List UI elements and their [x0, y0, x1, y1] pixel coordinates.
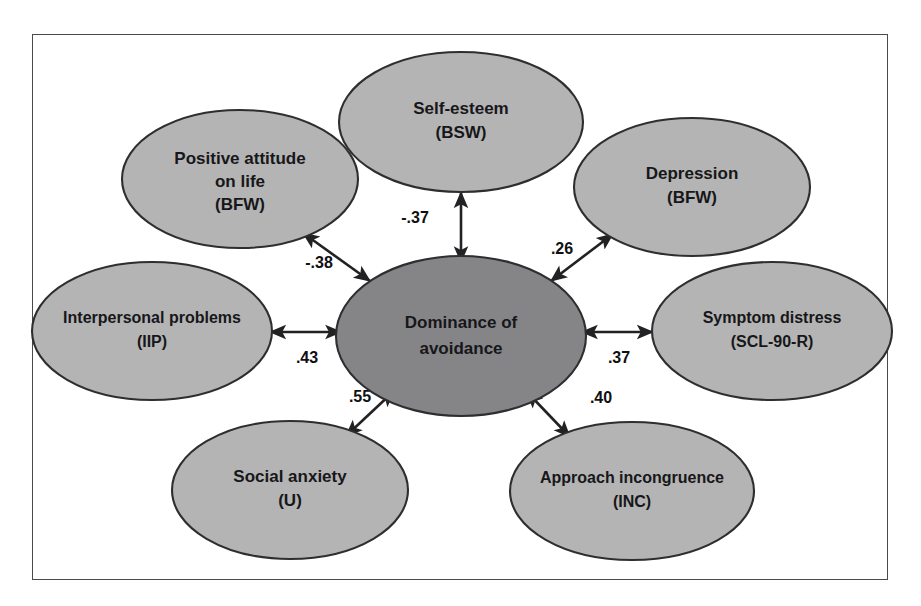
edge-label-positive-attitude: -.38 [305, 254, 333, 271]
node-label-dominance-line1: Dominance of [405, 313, 518, 332]
edge-interpersonal-problems: .43 [270, 332, 341, 366]
node-label-self-esteem-line1: Self-esteem [413, 99, 508, 118]
node-ellipse-approach-incongruence[interactable] [510, 422, 754, 560]
node-label-symptom-distress-line1: Symptom distress [703, 309, 842, 326]
node-ellipse-interpersonal-problems[interactable] [32, 262, 272, 400]
node-positive-attitude-on-life[interactable]: Positive attitude on life (BFW) [122, 110, 358, 248]
node-symptom-distress[interactable]: Symptom distress (SCL-90-R) [652, 262, 892, 400]
edge-depression: .26 [551, 234, 613, 281]
node-label-dominance-line2: avoidance [419, 339, 502, 358]
node-depression[interactable]: Depression (BFW) [574, 118, 810, 256]
node-ellipse-social-anxiety[interactable] [172, 421, 408, 559]
node-label-symptom-distress-line2: (SCL-90-R) [731, 333, 814, 350]
node-label-depression-line1: Depression [646, 164, 739, 183]
node-approach-incongruence[interactable]: Approach incongruence (INC) [510, 422, 754, 560]
node-ellipse-self-esteem[interactable] [339, 52, 583, 192]
node-label-positive-attitude-line2: on life [215, 172, 265, 191]
node-label-interpersonal-problems-line1: Interpersonal problems [63, 309, 241, 326]
edge-label-interpersonal-problems: .43 [296, 349, 318, 366]
node-label-self-esteem-line2: (BSW) [436, 123, 487, 142]
edge-positive-attitude: -.38 [303, 233, 370, 281]
node-label-approach-incongruence-line2: (INC) [613, 493, 651, 510]
node-label-positive-attitude-line3: (BFW) [215, 195, 265, 214]
edge-label-depression: .26 [551, 240, 573, 257]
node-social-anxiety[interactable]: Social anxiety (U) [172, 421, 408, 559]
node-label-interpersonal-problems-line2: (IIP) [137, 333, 167, 350]
node-ellipse-dominance-of-avoidance[interactable] [336, 256, 586, 416]
edge-label-approach-incongruence: .40 [590, 389, 612, 406]
node-label-approach-incongruence-line1: Approach incongruence [540, 469, 724, 486]
node-ellipse-symptom-distress[interactable] [652, 262, 892, 400]
edge-label-social-anxiety: .55 [349, 388, 371, 405]
edge-self-esteem: -.37 [401, 192, 461, 262]
edge-label-self-esteem: -.37 [401, 209, 429, 226]
node-ellipse-depression[interactable] [574, 118, 810, 256]
node-interpersonal-problems[interactable]: Interpersonal problems (IIP) [32, 262, 272, 400]
node-label-depression-line2: (BFW) [667, 188, 717, 207]
figure-root: -.37 -.38 .26 .43 .37 .55 [0, 0, 921, 606]
edge-label-symptom-distress: .37 [608, 349, 630, 366]
correlation-diagram: -.37 -.38 .26 .43 .37 .55 [0, 0, 921, 606]
edge-symptom-distress: .37 [582, 332, 653, 366]
node-self-esteem[interactable]: Self-esteem (BSW) [339, 52, 583, 192]
node-label-social-anxiety-line2: (U) [278, 491, 302, 510]
node-dominance-of-avoidance[interactable]: Dominance of avoidance [336, 256, 586, 416]
node-label-social-anxiety-line1: Social anxiety [233, 467, 347, 486]
node-label-positive-attitude-line1: Positive attitude [174, 149, 305, 168]
